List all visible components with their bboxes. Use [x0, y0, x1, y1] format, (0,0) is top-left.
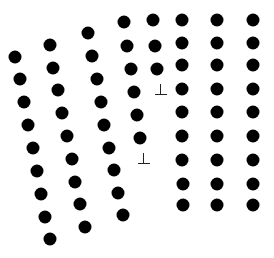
atom	[35, 188, 48, 201]
atom	[176, 83, 189, 96]
atom	[176, 37, 189, 50]
grain-boundary-diagram	[0, 0, 274, 258]
atom	[211, 199, 224, 212]
atom	[103, 142, 116, 155]
atom	[82, 27, 95, 40]
atom	[211, 14, 224, 27]
atom	[9, 51, 22, 64]
dislocation-symbol-icon	[155, 84, 167, 96]
atom	[176, 14, 189, 27]
atom	[98, 119, 111, 132]
atom	[128, 86, 141, 99]
atom	[91, 73, 104, 86]
atom	[247, 178, 260, 191]
atom	[176, 130, 189, 143]
atom	[134, 132, 147, 145]
atom	[176, 154, 189, 167]
atom	[247, 199, 260, 212]
atom	[211, 106, 224, 119]
atom	[211, 59, 224, 72]
atom	[74, 198, 87, 211]
atom	[151, 63, 164, 76]
atom	[56, 107, 69, 120]
atom	[211, 83, 224, 96]
atom	[247, 154, 260, 167]
atom	[247, 83, 260, 96]
atom	[18, 96, 31, 109]
atom	[118, 16, 131, 29]
atom	[211, 37, 224, 50]
atom	[44, 39, 57, 52]
atom	[69, 176, 82, 189]
atom	[211, 178, 224, 191]
dislocation-symbol-icon	[138, 153, 150, 165]
atom	[44, 233, 57, 246]
atom	[14, 73, 27, 86]
atom	[121, 40, 134, 53]
atom	[108, 164, 121, 177]
atom	[177, 199, 190, 212]
atom	[211, 154, 224, 167]
atom	[147, 14, 160, 27]
atom	[247, 130, 260, 143]
atom	[211, 130, 224, 143]
atom	[47, 62, 60, 75]
atom	[22, 119, 35, 132]
atom	[31, 165, 44, 178]
atom	[117, 209, 130, 222]
atom	[66, 153, 79, 166]
atom	[95, 96, 108, 109]
atom	[27, 142, 40, 155]
atom	[52, 84, 65, 97]
atom	[112, 187, 125, 200]
atom	[125, 63, 138, 76]
atom	[176, 59, 189, 72]
atom	[177, 178, 190, 191]
atom	[79, 221, 92, 234]
atom	[61, 130, 74, 143]
atom	[247, 37, 260, 50]
atom	[39, 211, 52, 224]
atom	[176, 106, 189, 119]
atom	[149, 40, 162, 53]
atom	[247, 14, 260, 27]
atom	[131, 109, 144, 122]
atom	[86, 50, 99, 63]
atom	[247, 106, 260, 119]
atom	[247, 59, 260, 72]
